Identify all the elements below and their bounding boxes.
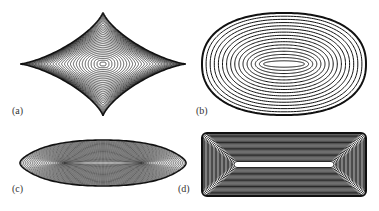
astroid-contour — [91, 57, 115, 72]
astroid-contour — [97, 60, 109, 67]
ellipse-contour — [251, 51, 317, 77]
ellipse-contour — [223, 29, 346, 99]
astroid-contour — [88, 55, 118, 74]
lens-contour — [34, 147, 172, 179]
panel-a-label: (a) — [12, 105, 23, 116]
astroid-contour — [47, 29, 160, 100]
lens-contour — [62, 161, 144, 165]
panel-d-label: (d) — [178, 183, 190, 194]
panel-b-label: (b) — [196, 105, 208, 116]
astroid-contour — [85, 53, 121, 75]
astroid-contour — [50, 31, 157, 98]
rect-contour — [226, 154, 342, 174]
ellipse-contour — [247, 48, 321, 80]
rect-contour — [222, 151, 346, 178]
astroid-contour — [41, 25, 166, 103]
ellipse-contour — [259, 58, 308, 71]
lens-contour — [57, 159, 149, 168]
contour-figure — [0, 0, 379, 211]
astroid-contour — [100, 62, 106, 66]
rect-contour — [234, 162, 334, 168]
ellipse-contour — [206, 16, 362, 112]
lens-contour — [64, 162, 142, 164]
ellipse-contour — [210, 19, 358, 108]
ellipse-contour — [235, 39, 333, 90]
ellipse-contour — [264, 61, 305, 67]
panel-c-label: (c) — [12, 183, 23, 194]
astroid-contour — [38, 23, 168, 105]
ellipse-contour — [218, 26, 349, 103]
astroid-contour — [20, 12, 186, 116]
astroid-contour — [79, 49, 126, 79]
astroid-contour — [29, 18, 177, 111]
